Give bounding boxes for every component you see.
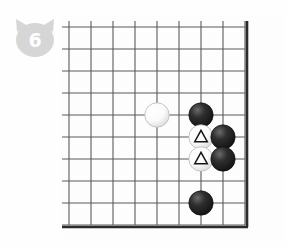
stone-black[interactable] [211, 147, 235, 171]
stone-white[interactable] [189, 125, 213, 149]
black-stone-icon[interactable] [189, 103, 213, 127]
stone-black[interactable] [211, 125, 235, 149]
black-stone-icon[interactable] [189, 191, 213, 215]
stone-white[interactable] [189, 147, 213, 171]
stone-black[interactable] [189, 103, 213, 127]
go-board[interactable] [62, 16, 284, 238]
diagram-root: 6 [0, 0, 288, 250]
black-stone-icon[interactable] [211, 147, 235, 171]
problem-number-badge: 6 [11, 16, 59, 60]
white-stone-icon[interactable] [189, 147, 213, 171]
white-stone-icon[interactable] [145, 103, 169, 127]
black-stone-icon[interactable] [211, 125, 235, 149]
go-board-canvas[interactable] [62, 16, 284, 238]
stone-black[interactable] [189, 191, 213, 215]
white-stone-icon[interactable] [189, 125, 213, 149]
stone-white[interactable] [145, 103, 169, 127]
problem-number-label: 6 [11, 16, 59, 60]
